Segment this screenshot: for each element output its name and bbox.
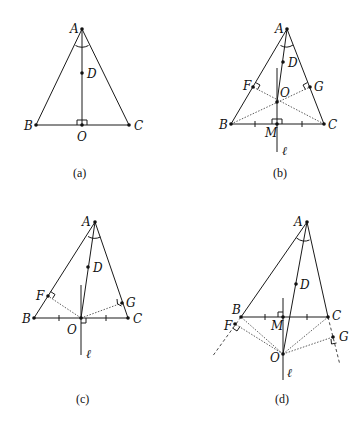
label-o: O	[270, 351, 280, 365]
label-m: M	[264, 126, 278, 140]
caption-c: (c)	[76, 392, 89, 406]
geometry-figure: A D B O C (a) A	[0, 0, 364, 425]
label-c: C	[134, 119, 143, 133]
label-o: O	[77, 130, 87, 144]
label-l: ℓ	[287, 366, 292, 380]
label-a: A	[293, 215, 303, 229]
triangle-abc	[241, 222, 328, 317]
panel-c: A D F G B O C ℓ (c)	[21, 215, 142, 406]
label-l: ℓ	[282, 144, 287, 158]
label-b: B	[21, 312, 31, 326]
panel-a: A D B O C (a)	[23, 22, 143, 180]
label-g: G	[314, 80, 324, 94]
panel-d: A D B M C F G O ℓ (d)	[212, 215, 349, 406]
label-m: M	[270, 319, 284, 333]
caption-b: (b)	[273, 166, 287, 180]
label-c: C	[328, 118, 337, 132]
label-f: F	[242, 79, 252, 93]
label-f: F	[223, 319, 233, 333]
label-d: D	[299, 278, 310, 292]
label-f: F	[35, 289, 45, 303]
label-b: B	[23, 119, 33, 133]
panel-b: A D F G O B M C ℓ (b)	[218, 22, 337, 180]
label-d: D	[86, 67, 97, 81]
label-o: O	[67, 323, 77, 337]
label-a: A	[81, 215, 91, 229]
label-o: O	[280, 86, 290, 100]
label-l: ℓ	[86, 347, 91, 361]
caption-a: (a)	[73, 166, 86, 180]
label-a: A	[274, 22, 284, 36]
label-b: B	[218, 118, 228, 132]
label-d: D	[287, 56, 298, 70]
label-c: C	[133, 312, 142, 326]
label-g: G	[339, 330, 349, 344]
label-c: C	[332, 309, 341, 323]
label-b: B	[231, 303, 241, 317]
label-d: D	[92, 261, 103, 275]
label-a: A	[69, 22, 79, 36]
caption-d: (d)	[275, 392, 289, 406]
label-g: G	[126, 296, 136, 310]
